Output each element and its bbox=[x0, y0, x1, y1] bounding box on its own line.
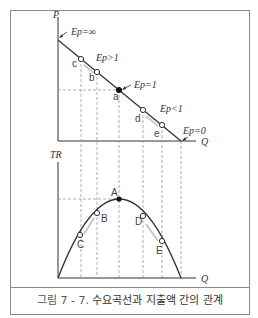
label-B: B bbox=[101, 213, 108, 224]
point-b bbox=[94, 69, 99, 74]
point-c bbox=[78, 56, 83, 61]
label-E: E bbox=[156, 245, 163, 256]
label-ep-infinite: Ep=∞ bbox=[70, 26, 96, 37]
segment-bc bbox=[84, 218, 94, 234]
arrow-head-icon bbox=[59, 34, 63, 38]
point-C bbox=[77, 232, 82, 237]
bottom-panel: TR Q A B C D E bbox=[50, 149, 209, 284]
point-B bbox=[94, 210, 99, 215]
point-e bbox=[159, 122, 164, 127]
top-panel: P Q c b a d e Ep=∞ Ep>1 bbox=[52, 9, 209, 278]
label-ep-unit: Ep=1 bbox=[133, 79, 157, 90]
caption-divider bbox=[10, 287, 250, 288]
point-E bbox=[159, 238, 164, 243]
figure-caption: 그림 7 - 7. 수요곡선과 지출액 간의 관계 bbox=[10, 290, 250, 312]
demand-revenue-diagram: P Q c b a d e Ep=∞ Ep>1 bbox=[0, 0, 258, 318]
label-D: D bbox=[135, 216, 142, 227]
label-ep-zero: Ep=0 bbox=[182, 125, 206, 136]
tr-axis-label: TR bbox=[50, 149, 62, 160]
arrow-head-icon bbox=[182, 137, 186, 141]
label-ep-elastic: Ep>1 bbox=[95, 52, 119, 63]
label-A: A bbox=[111, 187, 118, 198]
label-c: c bbox=[72, 58, 77, 69]
figure-number: 그림 7 - 7. bbox=[37, 294, 89, 307]
quantity-axis-label-bottom: Q bbox=[201, 273, 209, 284]
arrow-head-icon bbox=[122, 86, 126, 90]
label-C: C bbox=[77, 239, 84, 250]
label-a: a bbox=[113, 91, 119, 102]
label-ep-inelastic: Ep<1 bbox=[159, 103, 183, 114]
figure-title: 수요곡선과 지출액 간의 관계 bbox=[92, 294, 223, 307]
point-d bbox=[140, 107, 145, 112]
quantity-axis-label: Q bbox=[201, 136, 209, 147]
label-b: b bbox=[89, 72, 95, 83]
price-axis-label: P bbox=[52, 9, 59, 20]
label-e: e bbox=[154, 128, 160, 139]
label-d: d bbox=[135, 113, 141, 124]
